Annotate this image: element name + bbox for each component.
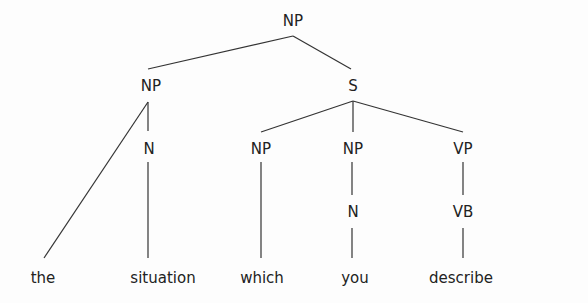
word-w_the: the: [31, 269, 56, 287]
edge-s-vp: [353, 101, 463, 132]
node-vp: VP: [453, 140, 472, 158]
node-np_which: NP: [251, 140, 271, 158]
syntax-tree-diagram: NPNPSNNPNPVPNVBthesituationwhichyoudescr…: [0, 0, 588, 303]
edge-np_root-s: [293, 36, 351, 69]
word-w_you: you: [341, 269, 369, 287]
node-np_you: NP: [343, 140, 363, 158]
word-w_situation: situation: [130, 269, 195, 287]
node-vb: VB: [453, 203, 474, 221]
word-w_describe: describe: [429, 269, 493, 287]
edge-np_left-w_the: [44, 102, 148, 258]
node-s: S: [348, 77, 358, 95]
node-n_left: N: [143, 140, 154, 158]
node-n_you: N: [347, 203, 358, 221]
tree-canvas: NPNPSNNPNPVPNVBthesituationwhichyoudescr…: [0, 0, 588, 303]
node-np_root: NP: [283, 12, 303, 30]
edge-np_root-np_left: [148, 36, 293, 69]
node-np_left: NP: [141, 77, 161, 95]
edge-s-np_which: [261, 101, 353, 132]
word-w_which: which: [240, 269, 284, 287]
